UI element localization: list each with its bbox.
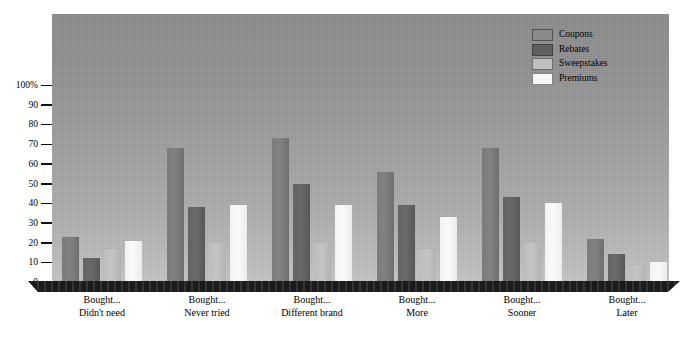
y-axis-tick-mark [41,262,52,264]
x-axis-label-line1: Bought... [557,294,691,307]
bar [440,217,457,282]
y-axis: 0102030405060708090100% [0,0,52,300]
legend-swatch [532,29,553,41]
bar [167,148,184,282]
y-axis-tick-mark [41,203,52,205]
bar-face [125,241,142,282]
bar-face [398,205,415,282]
bar-face [482,148,499,282]
bar-group [377,14,457,282]
legend-swatch [532,44,553,56]
y-axis-tick-mark [41,104,52,106]
bar-chart: 0102030405060708090100% CouponsRebatesSw… [0,0,691,340]
bar [650,262,667,282]
y-axis-tick-label: 70 [29,138,39,150]
bar [104,249,121,282]
bar-face [167,148,184,282]
legend-item: Rebates [532,42,662,57]
y-axis-tick-mark [41,85,52,87]
bar [335,205,352,282]
bar [503,197,520,282]
bar-face [209,243,226,282]
legend-label: Coupons [559,27,593,41]
legend-item: Sweepstakes [532,56,662,71]
y-axis-tick-mark [41,183,52,185]
bar-face [293,184,310,283]
y-axis-tick-label: 10 [29,256,39,268]
bar [83,258,100,282]
y-axis-tick-label: 50 [29,178,39,190]
legend-item: Coupons [532,27,662,42]
bar-face [545,203,562,282]
bar-face [377,172,394,282]
bar-group [272,14,352,282]
bar-face [104,249,121,282]
bar [230,205,247,282]
y-axis-tick-label: 40 [29,197,39,209]
x-axis-labels: Bought...Didn't needBought...Never tried… [0,294,691,334]
bar [272,138,289,282]
legend-label: Sweepstakes [559,56,608,70]
legend-label: Premiums [559,71,598,85]
bar [293,184,310,283]
bar-face [650,262,667,282]
bar [188,207,205,282]
bar-face [62,237,79,282]
bar-face [503,197,520,282]
legend-item: Premiums [532,71,662,86]
y-axis-tick-label: 90 [29,99,39,111]
y-axis-tick-mark [41,163,52,165]
bar-face [608,254,625,282]
bar-face [524,243,541,282]
bar [125,241,142,282]
y-axis-tick-label: 30 [29,217,39,229]
bar-face [440,217,457,282]
y-axis-tick-mark [41,124,52,126]
y-axis-tick-label: 20 [29,237,39,249]
y-axis-tick-mark [41,242,52,244]
y-axis-tick-label: 60 [29,158,39,170]
bar-face [83,258,100,282]
legend-swatch [532,73,553,85]
bar [482,148,499,282]
bar [377,172,394,282]
bar [608,254,625,282]
bar-group [167,14,247,282]
chart-floor [30,281,680,292]
bar-face [629,266,646,282]
bar [545,203,562,282]
bar-face [188,207,205,282]
x-axis-label-line2: Later [557,307,691,320]
bar [587,239,604,282]
bar-face [314,243,331,282]
bar-group [62,14,142,282]
bar [419,249,436,282]
y-axis-tick-label: 80 [29,118,39,130]
x-axis-label: Bought...Later [557,294,691,319]
bar-face [335,205,352,282]
floor-texture [30,281,680,292]
legend-label: Rebates [559,42,589,56]
bar [629,266,646,282]
y-axis-tick-label: 100% [16,79,38,91]
bar [314,243,331,282]
bar [398,205,415,282]
bar [62,237,79,282]
y-axis-tick-mark [41,222,52,224]
legend-swatch [532,58,553,70]
bar-face [230,205,247,282]
bar-face [419,249,436,282]
bar [209,243,226,282]
bar [524,243,541,282]
y-axis-tick-mark [41,144,52,146]
legend: CouponsRebatesSweepstakesPremiums [532,27,662,85]
bar-face [587,239,604,282]
bar-face [272,138,289,282]
